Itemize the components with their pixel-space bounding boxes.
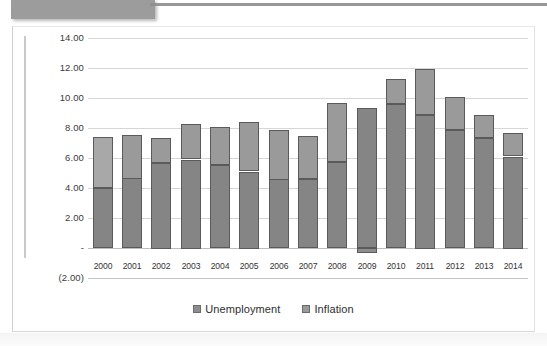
bar-segment-unemployment-2012[interactable] <box>445 130 465 248</box>
bar-segment-unemployment-2013[interactable] <box>474 138 494 248</box>
bar-group-2003[interactable] <box>181 0 201 300</box>
y-axis-tick: 12.00 <box>26 62 84 74</box>
x-axis-tick-label-2014: 2014 <box>496 261 530 271</box>
bar-segment-unemployment-2000[interactable] <box>93 188 113 248</box>
bar-segment-inflation-2011[interactable] <box>415 69 435 115</box>
y-axis-tick-label: (2.00) <box>32 272 84 283</box>
y-axis-tick-label: 12.00 <box>32 62 84 73</box>
bar-group-2010[interactable] <box>386 0 406 300</box>
unemployment-swatch-icon <box>193 305 201 313</box>
y-axis-tick: 2.00 <box>26 212 84 224</box>
legend-label-inflation: Inflation <box>314 303 353 315</box>
bar-segment-inflation-2008[interactable] <box>327 103 347 162</box>
legend-item-unemployment[interactable]: Unemployment <box>193 303 280 315</box>
bar-segment-inflation-2010[interactable] <box>386 79 406 104</box>
y-axis-tick-label: 2.00 <box>32 212 84 223</box>
bar-segment-unemployment-2010[interactable] <box>386 104 406 248</box>
bar-segment-unemployment-2007[interactable] <box>298 179 318 248</box>
bar-segment-inflation-2005[interactable] <box>239 122 259 171</box>
bar-segment-inflation-2007[interactable] <box>298 136 318 179</box>
y-axis-tick-label: 4.00 <box>32 182 84 193</box>
bar-segment-inflation-2014[interactable] <box>503 133 523 156</box>
y-axis-tick-label: 14.00 <box>32 32 84 43</box>
y-axis-tick-label: 6.00 <box>32 152 84 163</box>
x-axis-tick-label-2011: 2011 <box>408 261 442 271</box>
bar-segment-unemployment-2006[interactable] <box>269 179 289 248</box>
bar-group-2001[interactable] <box>122 0 142 300</box>
y-axis-tick: 6.00 <box>26 152 84 164</box>
bar-segment-unemployment-2014[interactable] <box>503 157 523 249</box>
bar-segment-inflation-2006[interactable] <box>269 130 289 180</box>
bar-group-2013[interactable] <box>474 0 494 300</box>
bar-segment-unemployment-2003[interactable] <box>181 160 201 249</box>
bar-group-2007[interactable] <box>298 0 318 300</box>
bar-group-2008[interactable] <box>327 0 347 300</box>
y-axis-tick: 10.00 <box>26 92 84 104</box>
bar-segment-unemployment-2011[interactable] <box>415 115 435 249</box>
chart-legend: Unemployment Inflation <box>0 303 547 315</box>
bar-group-2012[interactable] <box>445 0 465 300</box>
bar-segment-inflation-2001[interactable] <box>122 135 142 179</box>
y-axis-tick-label: 10.00 <box>32 92 84 103</box>
y-axis-tick: 14.00 <box>26 32 84 44</box>
bar-group-2011[interactable] <box>415 0 435 300</box>
inflation-swatch-icon <box>302 305 310 313</box>
bar-segment-inflation-2012[interactable] <box>445 97 465 130</box>
bar-segment-unemployment-2004[interactable] <box>210 165 230 248</box>
bar-segment-unemployment-2002[interactable] <box>151 163 171 249</box>
y-axis-tick: (2.00) <box>26 272 84 284</box>
x-axis-tick-label-2008: 2008 <box>320 261 354 271</box>
bar-group-2009[interactable] <box>357 0 377 300</box>
bar-group-2005[interactable] <box>239 0 259 300</box>
chart-plot-area: 14.0012.0010.008.006.004.002.00-(2.00) 2… <box>0 0 547 346</box>
bar-segment-inflation-2002[interactable] <box>151 138 171 163</box>
bar-segment-unemployment-2001[interactable] <box>122 178 142 248</box>
scan-edge-shading <box>0 333 547 346</box>
bar-segment-inflation-2004[interactable] <box>210 127 230 165</box>
y-axis-tick: 8.00 <box>26 122 84 134</box>
bar-group-2002[interactable] <box>151 0 171 300</box>
bar-segment-unemployment-2008[interactable] <box>327 162 347 248</box>
y-axis-tick: - <box>26 242 84 254</box>
bar-segment-inflation-2000[interactable] <box>93 137 113 188</box>
bar-segment-unemployment-2005[interactable] <box>239 172 259 249</box>
bar-segment-inflation-2013[interactable] <box>474 115 494 138</box>
legend-item-inflation[interactable]: Inflation <box>302 303 353 315</box>
bar-segment-unemployment-2009[interactable] <box>357 108 377 248</box>
y-axis-tick-label: - <box>32 242 84 253</box>
bar-group-2006[interactable] <box>269 0 289 300</box>
bar-segment-inflation-2003[interactable] <box>181 124 201 159</box>
bar-group-2000[interactable] <box>93 0 113 300</box>
bar-group-2004[interactable] <box>210 0 230 300</box>
bar-segment-inflation-2009[interactable] <box>357 248 377 253</box>
x-axis-tick-label-2005: 2005 <box>232 261 266 271</box>
legend-label-unemployment: Unemployment <box>205 303 280 315</box>
x-axis-tick-label-2002: 2002 <box>144 261 178 271</box>
bar-group-2014[interactable] <box>503 0 523 300</box>
y-axis-tick: 4.00 <box>26 182 84 194</box>
y-axis-tick-label: 8.00 <box>32 122 84 133</box>
